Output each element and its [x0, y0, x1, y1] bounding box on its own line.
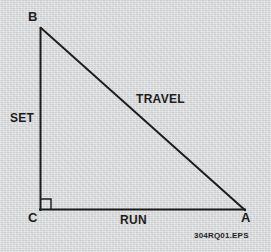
side-label-travel: TRAVEL	[136, 93, 185, 105]
vertex-label-b: B	[28, 10, 38, 23]
side-label-set: SET	[10, 112, 34, 124]
vertex-label-a: A	[241, 211, 251, 224]
side-travel-line	[41, 28, 245, 210]
right-angle-marker-icon	[41, 199, 51, 209]
figure-filename-caption: 304RQ01.EPS	[194, 231, 249, 240]
triangle-outline	[40, 28, 245, 210]
side-label-run: RUN	[120, 214, 147, 226]
vertex-label-c: C	[28, 211, 38, 224]
triangle-figure: B C A SET TRAVEL RUN 304RQ01.EPS	[0, 0, 271, 252]
